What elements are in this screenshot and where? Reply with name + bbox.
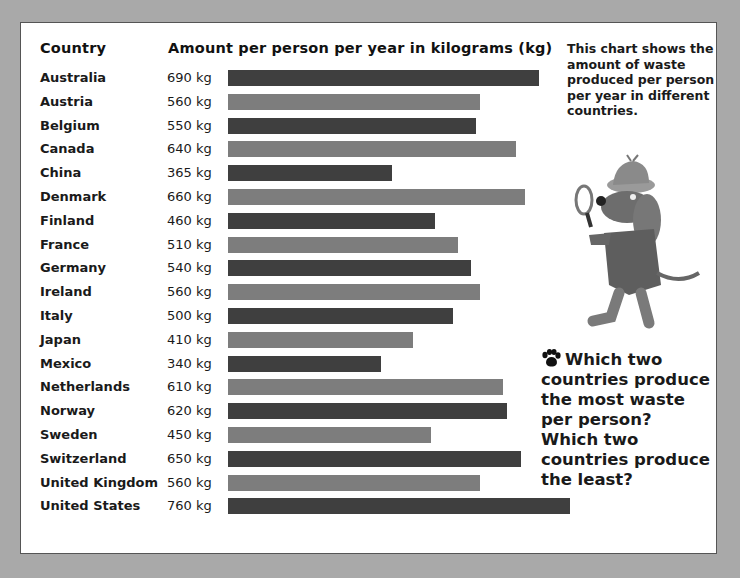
country-label: Sweden: [40, 427, 98, 442]
data-bar: [228, 284, 480, 300]
country-label: Belgium: [40, 118, 100, 133]
country-label: Mexico: [40, 356, 91, 371]
amount-label: 650 kg: [167, 451, 212, 466]
amount-label: 540 kg: [167, 260, 212, 275]
amount-label: 560 kg: [167, 94, 212, 109]
data-bar: [228, 94, 480, 110]
table-row: Japan410 kg: [21, 330, 541, 354]
table-row: Canada640 kg: [21, 139, 541, 163]
data-bar: [228, 118, 476, 134]
country-label: Japan: [40, 332, 81, 347]
country-label: Austria: [40, 94, 93, 109]
amount-label: 365 kg: [167, 165, 212, 180]
table-row: Austria560 kg: [21, 92, 541, 116]
data-bar: [228, 498, 570, 514]
country-label: Denmark: [40, 189, 106, 204]
country-label: China: [40, 165, 81, 180]
data-bar: [228, 260, 471, 276]
country-label: United States: [40, 498, 140, 513]
question-prompt: Which two countries produce the most was…: [541, 349, 711, 490]
table-row: Finland460 kg: [21, 211, 541, 235]
question-text: Which two countries produce the most was…: [541, 350, 710, 489]
country-label: France: [40, 237, 89, 252]
country-column-header: Country: [40, 40, 106, 56]
country-label: United Kingdom: [40, 475, 158, 490]
table-row: Sweden450 kg: [21, 425, 541, 449]
amount-label: 410 kg: [167, 332, 212, 347]
table-row: Denmark660 kg: [21, 187, 541, 211]
country-label: Germany: [40, 260, 106, 275]
table-row: Germany540 kg: [21, 258, 541, 282]
data-bar: [228, 141, 516, 157]
data-bar: [228, 213, 435, 229]
table-row: Belgium550 kg: [21, 116, 541, 140]
data-bar: [228, 403, 507, 419]
amount-label: 640 kg: [167, 141, 212, 156]
amount-label: 550 kg: [167, 118, 212, 133]
country-label: Netherlands: [40, 379, 130, 394]
chart-description: This chart shows the amount of waste pro…: [567, 41, 717, 119]
bar-rows: Australia690 kgAustria560 kgBelgium550 k…: [21, 68, 541, 520]
amount-label: 510 kg: [167, 237, 212, 252]
amount-label: 560 kg: [167, 475, 212, 490]
amount-label: 450 kg: [167, 427, 212, 442]
amount-label: 760 kg: [167, 498, 212, 513]
amount-label: 340 kg: [167, 356, 212, 371]
data-bar: [228, 451, 521, 467]
data-bar: [228, 427, 431, 443]
amount-label: 560 kg: [167, 284, 212, 299]
table-row: China365 kg: [21, 163, 541, 187]
chart-panel: Country Amount per person per year in ki…: [20, 22, 717, 554]
data-bar: [228, 308, 453, 324]
country-label: Ireland: [40, 284, 92, 299]
data-bar: [228, 475, 480, 491]
country-label: Finland: [40, 213, 94, 228]
country-label: Switzerland: [40, 451, 127, 466]
table-row: Ireland560 kg: [21, 282, 541, 306]
amount-label: 500 kg: [167, 308, 212, 323]
table-row: Netherlands610 kg: [21, 377, 541, 401]
country-label: Canada: [40, 141, 94, 156]
table-row: Australia690 kg: [21, 68, 541, 92]
table-row: Switzerland650 kg: [21, 449, 541, 473]
data-bar: [228, 237, 458, 253]
table-row: Italy500 kg: [21, 306, 541, 330]
amount-label: 660 kg: [167, 189, 212, 204]
data-bar: [228, 70, 539, 86]
country-label: Norway: [40, 403, 95, 418]
amount-label: 620 kg: [167, 403, 212, 418]
country-label: Australia: [40, 70, 106, 85]
table-row: Mexico340 kg: [21, 354, 541, 378]
data-bar: [228, 332, 413, 348]
amount-label: 610 kg: [167, 379, 212, 394]
amount-label: 690 kg: [167, 70, 212, 85]
table-row: France510 kg: [21, 235, 541, 259]
table-row: United Kingdom560 kg: [21, 473, 541, 497]
amount-column-header: Amount per person per year in kilograms …: [168, 40, 552, 56]
data-bar: [228, 379, 503, 395]
data-bar: [228, 189, 525, 205]
country-label: Italy: [40, 308, 73, 323]
data-bar: [228, 165, 392, 181]
data-bar: [228, 356, 381, 372]
table-row: United States760 kg: [21, 496, 541, 520]
detective-dog-illustration: [549, 145, 709, 335]
paw-icon: [541, 349, 561, 367]
table-row: Norway620 kg: [21, 401, 541, 425]
amount-label: 460 kg: [167, 213, 212, 228]
